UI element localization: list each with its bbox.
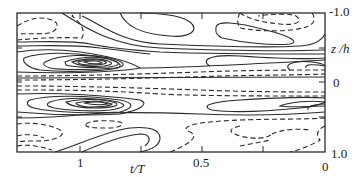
y-tick-label-mid: 0 <box>333 76 340 89</box>
x-tick-label-0-5: 0.5 <box>193 156 209 169</box>
x-ticks <box>80 13 263 152</box>
y-tick-label-bottom: 1.0 <box>331 147 347 160</box>
y-tick-label-top: -1.0 <box>329 5 350 18</box>
x-tick-label-0: 0 <box>322 160 329 173</box>
x-axis-title: t/T <box>130 162 144 175</box>
contour-plot <box>0 0 363 177</box>
contour-figure: -1.0 z /h 0 1.0 1 0.5 0 t/T <box>0 0 363 177</box>
x-tick-label-1: 1 <box>77 156 84 169</box>
contour-lines <box>17 13 325 152</box>
y-axis-title: z /h <box>331 42 349 55</box>
